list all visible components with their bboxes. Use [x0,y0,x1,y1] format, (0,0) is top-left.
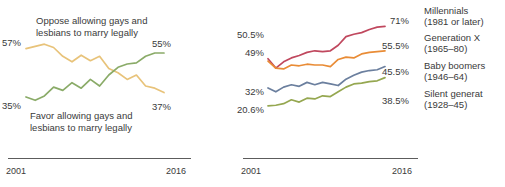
legend-item-millennials: Millennials (1981 or later) [424,5,484,27]
legend-item-generation-x: Generation X (1965–80) [424,32,480,54]
series-line-millennials [268,26,385,68]
chart2-label-genx-end: 55.5% [382,40,409,51]
series-line-generation-x [268,51,385,69]
chart2-label-boomers-end: 45.5% [382,66,409,77]
legend-name-baby-boomers: Baby boomers [424,60,485,71]
legend-item-baby-boomers: Baby boomers (1946–64) [424,60,485,82]
chart2-label-silent-end: 38.5% [382,95,409,106]
legend-cohort-silent-generation: (1928–45) [424,99,467,110]
legend-cohort-baby-boomers: (1946–64) [424,71,467,82]
legend-cohort-generation-x: (1965–80) [424,43,467,54]
series-line-baby-boomers [268,67,385,92]
chart2-label-genx-start: 49% [245,47,264,58]
legend-name-silent-generation: Silent generat [424,88,483,99]
chart2-label-silent-start: 20.6% [237,104,264,115]
chart2-label-millennials-end: 71% [390,15,409,26]
legend-name-millennials: Millennials [424,5,468,16]
legend-name-generation-x: Generation X [424,32,480,43]
series-line-silent-generation [268,78,385,106]
chart2-xtick-start: 2001 [241,166,261,176]
chart2-label-boomers-start: 32% [245,86,264,97]
figure-canvas: 57% 55% 35% 37% Oppose allowing gays and… [0,0,505,187]
legend-cohort-millennials: (1981 or later) [424,16,484,27]
chart2-label-millennials-start: 50.5% [237,29,264,40]
chart2-axis-line [243,158,418,159]
legend-item-silent-generation: Silent generat (1928–45) [424,88,483,110]
chart2-xtick-end: 2016 [392,166,412,176]
